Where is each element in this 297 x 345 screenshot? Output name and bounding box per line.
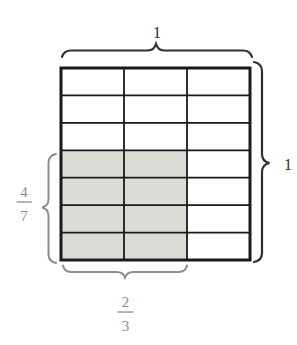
top-width-brace	[62, 44, 252, 57]
right-height-brace	[254, 62, 270, 262]
left-fraction-label: 4 7	[17, 184, 33, 224]
grid-cell	[124, 123, 187, 150]
shaded-cell	[61, 205, 124, 232]
grid-cell	[187, 205, 250, 232]
shaded-cell	[124, 233, 187, 260]
grid-cell	[61, 68, 124, 95]
grid-cell	[187, 123, 250, 150]
figure-svg: 1 1 4 7 2 3	[0, 0, 297, 345]
grid-cell	[61, 123, 124, 150]
grid-cell	[61, 95, 124, 122]
grid-cell	[187, 95, 250, 122]
bottom-fraction-denominator: 3	[122, 318, 130, 334]
shaded-cell	[124, 150, 187, 177]
bottom-fraction-label: 2 3	[118, 294, 134, 334]
shaded-cell	[61, 150, 124, 177]
left-fraction-brace	[42, 154, 56, 263]
grid-cell	[187, 233, 250, 260]
bottom-fraction-numerator: 2	[122, 294, 130, 310]
top-width-label: 1	[153, 24, 161, 41]
right-height-label: 1	[284, 156, 292, 173]
left-fraction-numerator: 4	[20, 184, 28, 200]
shaded-cell	[124, 178, 187, 205]
grid-cells	[61, 68, 250, 260]
fraction-area-model-figure: 1 1 4 7 2 3	[0, 0, 297, 345]
left-fraction-denominator: 7	[20, 208, 28, 224]
grid-cell	[124, 95, 187, 122]
bottom-fraction-brace	[63, 266, 187, 278]
shaded-cell	[61, 178, 124, 205]
grid-cell	[187, 150, 250, 177]
shaded-cell	[124, 205, 187, 232]
shaded-cell	[61, 233, 124, 260]
grid-cell	[187, 178, 250, 205]
grid-cell	[187, 68, 250, 95]
grid-cell	[124, 68, 187, 95]
